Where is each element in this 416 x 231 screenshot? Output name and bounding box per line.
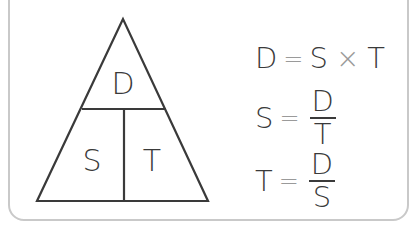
formula-term-a: S bbox=[309, 44, 327, 73]
fraction-numerator: D bbox=[310, 87, 336, 117]
formula-time: T = D S bbox=[255, 150, 335, 212]
formula-lhs: D bbox=[255, 44, 277, 73]
triangle-label-top: D bbox=[111, 66, 134, 101]
triangle-label-bottom-right: T bbox=[143, 143, 161, 178]
fraction-denominator: S bbox=[311, 182, 333, 212]
formula-lhs: S bbox=[255, 104, 273, 133]
equals-sign: = bbox=[279, 106, 299, 130]
formula-speed: S = D T bbox=[255, 87, 336, 149]
formula-term-b: T bbox=[367, 44, 385, 73]
fraction: D S bbox=[309, 150, 335, 212]
fraction-denominator: T bbox=[312, 119, 334, 149]
formula-lhs: T bbox=[255, 167, 273, 196]
equals-sign: = bbox=[283, 47, 303, 71]
multiply-sign: × bbox=[336, 45, 359, 73]
formula-triangle: D S T bbox=[0, 0, 416, 231]
fraction-numerator: D bbox=[309, 150, 335, 180]
formula-distance: D = S × T bbox=[255, 44, 385, 73]
triangle-label-bottom-left: S bbox=[82, 143, 101, 178]
fraction: D T bbox=[310, 87, 336, 149]
equals-sign: = bbox=[279, 169, 299, 193]
